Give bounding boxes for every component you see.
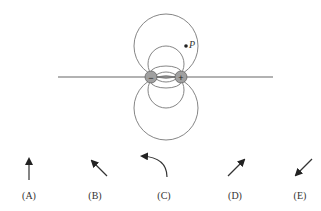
point-p-dot	[184, 44, 188, 48]
arrow-c-icon	[142, 156, 167, 177]
option-e-label: (E)	[294, 190, 307, 201]
option-a-label: (A)	[22, 190, 36, 201]
option-d-label: (D)	[228, 190, 242, 201]
negative-sign: −	[148, 73, 153, 83]
field-line-diagram: − +	[0, 0, 321, 211]
arrow-e-icon	[296, 159, 312, 175]
positive-sign: +	[178, 73, 183, 83]
point-p-label: P	[189, 39, 195, 50]
arrow-d-icon	[228, 160, 244, 176]
option-c-label: (C)	[157, 190, 170, 201]
option-b-label: (B)	[88, 190, 101, 201]
arrow-b-icon	[92, 161, 107, 176]
